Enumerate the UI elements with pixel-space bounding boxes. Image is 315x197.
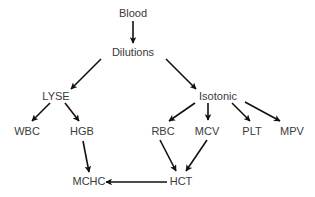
node-dilutions: Dilutions — [112, 47, 154, 58]
node-lyse: LYSE — [42, 91, 69, 102]
arrow-lyse-to-hgb — [65, 103, 79, 121]
node-rbc: RBC — [151, 126, 174, 137]
arrow-isotonic-to-mpv — [245, 102, 280, 121]
arrow-dilutions-to-lyse — [71, 59, 101, 89]
node-mchc: MCHC — [73, 176, 106, 187]
arrow-lyse-to-wbc — [32, 103, 50, 121]
arrow-rbc-to-hct — [160, 140, 176, 171]
node-hct: HCT — [170, 176, 193, 187]
arrow-hgb-to-mchc — [83, 141, 89, 172]
node-isotonic: Isotonic — [199, 91, 237, 102]
arrow-mcv-to-hct — [186, 140, 207, 171]
arrow-isotonic-to-rbc — [169, 103, 195, 121]
arrow-dilutions-to-isotonic — [166, 59, 196, 89]
node-mcv: MCV — [195, 126, 219, 137]
node-wbc: WBC — [14, 126, 40, 137]
node-mpv: MPV — [280, 126, 304, 137]
node-plt: PLT — [242, 126, 261, 137]
blood-analysis-flow-diagram: Blood Dilutions LYSE Isotonic WBC HGB RB… — [0, 0, 315, 197]
node-hgb: HGB — [70, 126, 94, 137]
node-blood: Blood — [119, 8, 147, 19]
arrow-isotonic-to-plt — [232, 103, 250, 121]
